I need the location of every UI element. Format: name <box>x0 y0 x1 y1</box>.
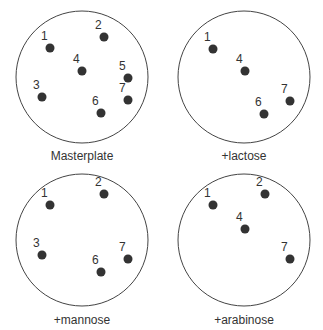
colony-label: 7 <box>281 82 288 96</box>
plate-label: +lactose <box>221 149 266 163</box>
colony-label: 6 <box>92 253 99 267</box>
colony-label: 3 <box>33 78 40 92</box>
plate-arabinose: 1247+arabinose <box>178 174 310 327</box>
colony-1 <box>46 44 55 53</box>
colony-label: 1 <box>204 186 211 200</box>
colony-label: 6 <box>92 94 99 108</box>
colony-label: 7 <box>119 240 126 254</box>
colony-label: 3 <box>33 236 40 250</box>
colony-4 <box>78 67 87 76</box>
colony-label: 4 <box>73 52 80 66</box>
colony-label: 7 <box>281 240 288 254</box>
colony-4 <box>241 67 250 76</box>
colony-3 <box>38 251 47 260</box>
colony-label: 4 <box>236 52 243 66</box>
plate-lactose: 1467+lactose <box>178 11 310 163</box>
plate-mannose: 12367+mannose <box>16 174 148 327</box>
plate-label: +arabinose <box>214 313 274 327</box>
colony-2 <box>100 190 109 199</box>
colony-label: 1 <box>204 30 211 44</box>
petri-dish-outline <box>178 174 310 306</box>
colony-1 <box>46 201 55 210</box>
plate-masterplate: 1234567Masterplate <box>16 11 148 163</box>
colony-1 <box>209 201 218 210</box>
colony-label: 2 <box>95 175 102 189</box>
colony-1 <box>209 45 218 54</box>
colony-label: 1 <box>41 29 48 43</box>
colony-6 <box>97 268 106 277</box>
colony-label: 7 <box>119 81 126 95</box>
plate-label: +mannose <box>54 313 111 327</box>
colony-7 <box>124 96 133 105</box>
colony-4 <box>241 225 250 234</box>
colony-label: 4 <box>236 210 243 224</box>
colony-label: 2 <box>95 18 102 32</box>
colony-label: 6 <box>255 95 262 109</box>
colony-7 <box>286 255 295 264</box>
colony-3 <box>38 93 47 102</box>
colony-6 <box>260 110 269 119</box>
colony-6 <box>97 109 106 118</box>
petri-dish-outline <box>178 11 310 143</box>
replica-plating-diagram: 1234567Masterplate1467+lactose12367+mann… <box>0 0 323 330</box>
colony-2 <box>261 190 270 199</box>
colony-2 <box>100 33 109 42</box>
colony-7 <box>124 255 133 264</box>
colony-7 <box>286 97 295 106</box>
plate-label: Masterplate <box>51 149 114 163</box>
colony-label: 5 <box>119 59 126 73</box>
colony-label: 1 <box>41 186 48 200</box>
colony-label: 2 <box>256 175 263 189</box>
